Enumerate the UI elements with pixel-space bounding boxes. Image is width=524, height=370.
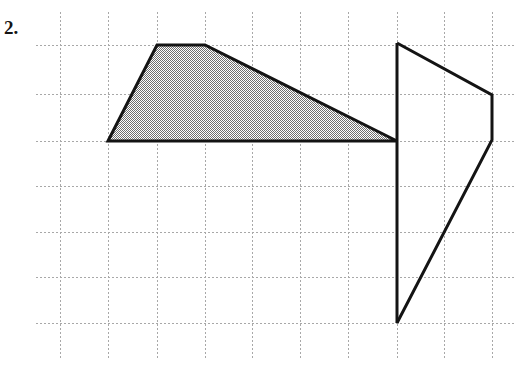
worksheet-page: 2. xyxy=(0,0,524,370)
open-quadrilateral-shape xyxy=(397,43,492,323)
figure-layer xyxy=(0,0,524,370)
shaded-trapezoid-shape xyxy=(108,45,397,141)
